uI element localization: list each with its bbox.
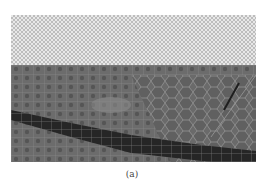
- figure-caption: (a): [0, 169, 264, 179]
- figure-image: [11, 15, 256, 162]
- superpixel-overlay: [11, 65, 256, 162]
- ground-region: [11, 65, 256, 162]
- transparent-sky-region: [11, 15, 256, 67]
